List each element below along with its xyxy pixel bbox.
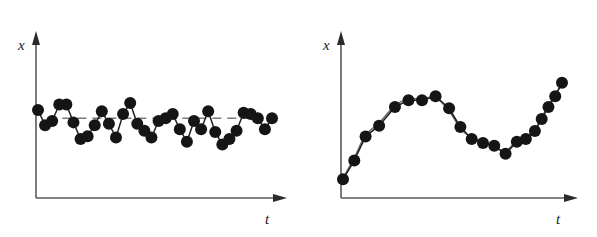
data-point-marker: [67, 116, 79, 128]
data-point-marker: [416, 94, 428, 106]
data-point-marker: [337, 173, 349, 185]
data-point-marker: [46, 115, 58, 127]
data-point-marker: [488, 140, 500, 152]
data-point-marker: [195, 123, 207, 135]
x-axis-arrowhead: [273, 194, 287, 202]
y-axis-label: x: [322, 37, 330, 53]
data-point-marker: [181, 136, 193, 148]
data-point-marker: [174, 123, 186, 135]
data-point-marker: [145, 132, 157, 144]
data-point-marker: [209, 126, 221, 138]
data-point-marker: [259, 123, 271, 135]
data-point-marker: [443, 102, 455, 114]
data-point-marker: [60, 98, 72, 110]
right-chart-svg: x t: [300, 0, 597, 237]
stationary-series-panel: x t: [0, 0, 300, 237]
data-point-marker: [402, 94, 414, 106]
data-point-marker: [542, 101, 554, 113]
data-point-marker: [252, 112, 264, 124]
data-point-marker: [430, 90, 442, 102]
data-point-marker: [231, 125, 243, 137]
data-point-marker: [520, 133, 532, 145]
data-point-marker: [549, 90, 561, 102]
figure-container: x t x t: [0, 0, 597, 237]
data-point-marker: [373, 120, 385, 132]
data-point-marker: [32, 104, 44, 116]
data-point-marker: [529, 125, 541, 137]
data-point-marker: [266, 112, 278, 124]
data-point-marker: [389, 101, 401, 113]
data-point-marker: [96, 105, 108, 117]
data-point-marker: [556, 77, 568, 89]
data-point-marker: [454, 121, 466, 133]
data-point-marker: [124, 97, 136, 109]
y-axis-arrowhead: [337, 31, 345, 45]
left-chart-svg: x t: [0, 0, 300, 237]
data-point-marker: [500, 148, 512, 160]
data-point-marker: [117, 108, 129, 120]
data-point-marker: [536, 113, 548, 125]
y-axis-arrowhead: [32, 31, 40, 45]
x-axis-arrowhead: [564, 194, 578, 202]
data-point-marker: [477, 137, 489, 149]
data-point-marker: [103, 118, 115, 130]
data-point-marker: [466, 133, 478, 145]
data-point-marker: [348, 155, 360, 167]
data-point-marker: [360, 130, 372, 142]
data-point-marker: [110, 132, 122, 144]
data-point-marker: [89, 119, 101, 131]
y-axis-label: x: [17, 37, 25, 53]
data-point-marker: [167, 108, 179, 120]
nonstationary-series-panel: x t: [300, 0, 597, 237]
x-axis-label: t: [265, 211, 270, 227]
x-axis-label: t: [556, 211, 561, 227]
data-point-marker: [202, 105, 214, 117]
data-point-markers: [32, 97, 278, 150]
data-point-marker: [82, 130, 94, 142]
